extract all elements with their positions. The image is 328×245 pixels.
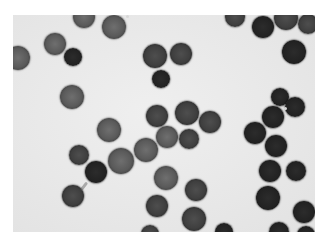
blood-cell <box>225 15 245 27</box>
blood-cell <box>199 111 221 133</box>
blood-cell <box>179 129 199 149</box>
blood-cell <box>146 195 168 217</box>
light-speck <box>126 15 129 18</box>
blood-cell <box>69 145 89 165</box>
blood-cell <box>156 126 178 148</box>
blood-cell <box>73 15 95 28</box>
blood-cell <box>44 33 66 55</box>
blood-cell <box>185 179 207 201</box>
blood-cell <box>215 223 233 232</box>
blood-cell <box>152 70 170 88</box>
blood-cell <box>13 46 30 70</box>
blood-cell <box>175 101 199 125</box>
blood-cell <box>134 138 158 162</box>
blood-cell <box>252 16 274 38</box>
blood-cell <box>141 225 159 232</box>
blood-cell <box>170 43 192 65</box>
blood-cell <box>282 40 306 64</box>
blood-cell <box>262 106 284 128</box>
blood-cell <box>297 226 315 232</box>
blood-cell <box>274 15 298 30</box>
blood-cell <box>146 105 168 127</box>
fibrin-strand <box>80 182 89 192</box>
micrograph-photo <box>13 15 315 232</box>
blood-cell <box>244 122 266 144</box>
blood-cell <box>265 135 287 157</box>
blood-cell <box>182 207 206 231</box>
blood-cell <box>85 161 107 183</box>
blood-cell <box>108 148 134 174</box>
blood-cell <box>102 15 126 39</box>
blood-cell <box>64 48 82 66</box>
blood-cell <box>285 97 305 117</box>
image-frame <box>0 0 328 245</box>
blood-cell <box>293 201 315 223</box>
blood-cell <box>286 161 306 181</box>
blood-cell <box>256 186 280 210</box>
light-speck <box>284 107 287 110</box>
blood-cell <box>298 15 315 34</box>
blood-cell <box>60 85 84 109</box>
blood-cell <box>97 118 121 142</box>
blood-cell <box>269 222 289 232</box>
blood-cell <box>143 44 167 68</box>
blood-cell <box>259 160 281 182</box>
blood-cell <box>154 166 178 190</box>
